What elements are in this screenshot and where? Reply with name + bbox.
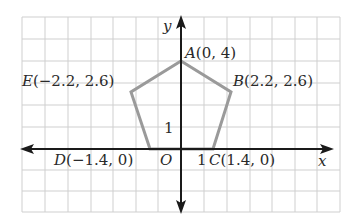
origin-label: O (160, 151, 172, 169)
point-a-label: A(0, 4) (183, 44, 236, 62)
point-e-label: E(−2.2, 2.6) (21, 72, 114, 90)
y-tick-label: 1 (164, 119, 174, 137)
axes (20, 15, 334, 214)
point-b-label: B(2.2, 2.6) (232, 72, 313, 90)
x-axis-label: x (318, 152, 327, 170)
point-d-label: D(−1.4, 0) (53, 151, 133, 169)
coordinate-plane: y x O 1 1 A(0, 4) B(2.2, 2.6) C(1.4, 0) … (0, 0, 344, 217)
point-c-label: C(1.4, 0) (209, 151, 275, 169)
x-tick-label: 1 (197, 151, 207, 169)
y-axis-label: y (162, 17, 172, 35)
